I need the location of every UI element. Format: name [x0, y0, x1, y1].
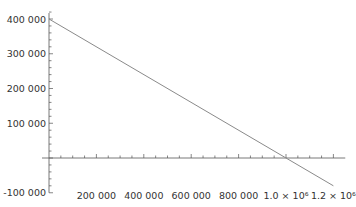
- tick-labels: 200 000400 000600 000800 0001.0 × 10⁶1.2…: [3, 14, 356, 202]
- y-tick-label: 300 000: [7, 48, 46, 59]
- y-tick-label: -100 000: [3, 187, 46, 198]
- y-tick-label: 100 000: [7, 118, 46, 129]
- chart: 200 000400 000600 000800 0001.0 × 10⁶1.2…: [0, 0, 356, 207]
- x-tick-label: 600 000: [172, 190, 211, 201]
- x-tick-label: 400 000: [124, 190, 163, 201]
- x-tick-label: 1.2 × 10⁶: [311, 190, 356, 201]
- x-tick-label: 200 000: [77, 190, 116, 201]
- y-tick-label: 400 000: [7, 14, 46, 25]
- series-line: [49, 19, 333, 186]
- x-tick-label: 800 000: [219, 190, 258, 201]
- y-tick-label: 200 000: [7, 83, 46, 94]
- x-tick-label: 1.0 × 10⁶: [263, 190, 308, 201]
- data-series: [49, 19, 333, 186]
